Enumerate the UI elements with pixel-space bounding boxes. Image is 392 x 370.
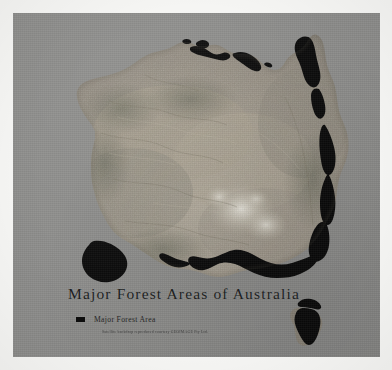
map-page: Major Forest Areas of Australia Major Fo… — [0, 0, 392, 370]
legend-item-label: Major Forest Area — [94, 315, 156, 324]
forest-area-swatch-icon — [76, 317, 85, 322]
map-title: Major Forest Areas of Australia — [68, 285, 300, 303]
map-caption-block: Major Forest Areas of Australia Major Fo… — [68, 285, 300, 334]
credit-line: Satellite backdrop reproduced courtesy G… — [102, 330, 300, 334]
forest-southwest-wa — [82, 241, 127, 283]
satellite-map-panel: Major Forest Areas of Australia Major Fo… — [13, 13, 380, 357]
map-legend: Major Forest Area — [76, 315, 300, 324]
